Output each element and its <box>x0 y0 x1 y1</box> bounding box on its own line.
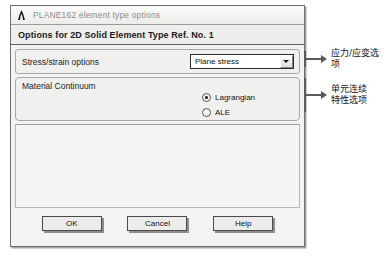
material-continuum-groupbox: Material Continuum Lagrangian ALE <box>15 77 300 121</box>
radio-unselected-icon <box>202 108 211 117</box>
radio-option-ale[interactable]: ALE <box>202 106 255 119</box>
arrow-right-icon <box>306 55 327 63</box>
radio-option-ale-label: ALE <box>215 108 230 117</box>
dialog-titlebar: PLANE162 element type options <box>11 6 304 25</box>
radio-option-lagrangian-label: Lagrangian <box>215 93 255 102</box>
dialog-subtitle-bar: Options for 2D Solid Element Type Ref. N… <box>11 25 304 45</box>
annotation-stress-strain-text: 应力/应变选项 <box>331 48 388 70</box>
material-continuum-radio-group: Lagrangian ALE <box>202 91 255 121</box>
dialog-body: Stress/strain options Plane stress Mater… <box>11 45 304 245</box>
dialog-empty-content-area <box>15 124 300 208</box>
annotation-material-continuum: 单元连续 特性选项 <box>304 78 367 112</box>
dialog-button-bar: OK Cancel Help <box>11 208 304 245</box>
stress-strain-options-dropdown[interactable]: Plane stress <box>190 54 294 69</box>
radio-selected-icon <box>202 93 211 102</box>
stress-strain-options-row: Stress/strain options Plane stress <box>15 49 300 74</box>
ok-button[interactable]: OK <box>42 216 102 231</box>
annotation-stress-strain: 应力/应变选项 <box>304 48 388 70</box>
dialog-subtitle: Options for 2D Solid Element Type Ref. N… <box>18 30 214 40</box>
chevron-down-icon[interactable] <box>280 55 293 68</box>
ansys-a-logo-icon <box>15 9 28 22</box>
stress-strain-options-label: Stress/strain options <box>22 57 99 67</box>
arrow-right-icon <box>306 91 327 99</box>
plane162-element-type-options-dialog: PLANE162 element type options Options fo… <box>10 5 305 247</box>
help-button[interactable]: Help <box>213 216 273 231</box>
material-continuum-label: Material Continuum <box>22 81 96 91</box>
stress-strain-options-value: Plane stress <box>191 57 280 66</box>
dialog-title: PLANE162 element type options <box>33 10 160 20</box>
cancel-button[interactable]: Cancel <box>127 216 187 231</box>
radio-option-lagrangian[interactable]: Lagrangian <box>202 91 255 104</box>
annotation-material-continuum-text: 单元连续 特性选项 <box>331 84 367 106</box>
